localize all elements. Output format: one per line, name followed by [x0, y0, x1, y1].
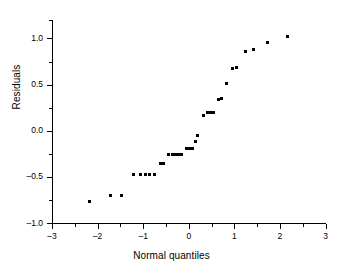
x-tick	[143, 224, 144, 229]
y-axis-label-wrapper: Residuals	[6, 27, 24, 147]
x-tick	[234, 224, 235, 229]
y-tick-label: –1.0	[10, 219, 43, 228]
x-tick-label: 3	[313, 231, 339, 241]
x-tick-label: 1	[221, 231, 247, 241]
x-tick-label: –1	[130, 231, 156, 241]
y-axis-label: Residuals	[11, 65, 22, 110]
data-point	[180, 153, 183, 156]
data-point	[109, 194, 112, 197]
x-tick-label: 2	[267, 231, 293, 241]
qq-plot-figure: –3–2–10123 1.00.50.0–0.5–1.0 Normal quan…	[0, 0, 343, 273]
data-point	[231, 67, 234, 70]
data-point	[162, 162, 165, 165]
y-tick-label: –0.5	[10, 172, 43, 181]
data-point	[244, 50, 247, 53]
data-point	[167, 153, 170, 156]
data-point	[144, 173, 147, 176]
data-point	[153, 173, 156, 176]
data-point	[132, 173, 135, 176]
x-tick	[189, 224, 190, 229]
data-point	[139, 173, 142, 176]
data-point	[235, 66, 238, 69]
y-tick	[47, 223, 52, 224]
x-tick	[98, 224, 99, 229]
x-tick	[212, 224, 213, 227]
data-point	[88, 200, 91, 203]
data-point	[196, 134, 199, 137]
data-point	[202, 114, 205, 117]
data-point	[266, 41, 269, 44]
x-tick	[120, 224, 121, 227]
data-point	[120, 194, 123, 197]
x-tick	[280, 224, 281, 229]
x-tick	[303, 224, 304, 227]
plot-data-area	[52, 20, 325, 223]
data-point	[220, 97, 223, 100]
data-point	[225, 82, 228, 85]
x-axis-label: Normal quantiles	[0, 250, 343, 261]
data-point	[286, 35, 289, 38]
data-point	[194, 140, 197, 143]
data-point	[252, 48, 255, 51]
data-point	[191, 147, 194, 150]
x-tick	[326, 224, 327, 229]
x-tick	[166, 224, 167, 227]
x-tick	[52, 224, 53, 229]
x-tick-label: –2	[85, 231, 111, 241]
x-tick	[75, 224, 76, 227]
x-tick-label: –3	[39, 231, 65, 241]
data-point	[148, 173, 151, 176]
x-tick-label: 0	[176, 231, 202, 241]
data-point	[212, 111, 215, 114]
x-tick	[257, 224, 258, 227]
